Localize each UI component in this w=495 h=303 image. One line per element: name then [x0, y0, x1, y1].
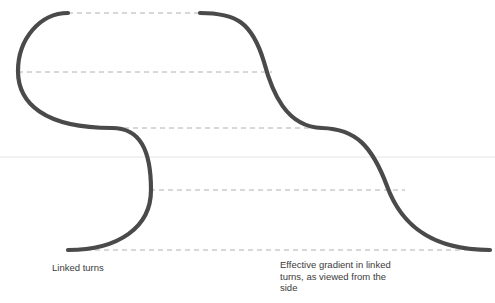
linked-turns-plan-path [18, 13, 151, 250]
diagram-svg [0, 0, 495, 303]
side-view-caption: Effective gradient in linked turns, as v… [280, 259, 404, 294]
plan-view-caption: Linked turns [52, 262, 104, 274]
diagram-canvas: Linked turns Effective gradient in linke… [0, 0, 495, 303]
effective-gradient-side-path [200, 13, 490, 250]
